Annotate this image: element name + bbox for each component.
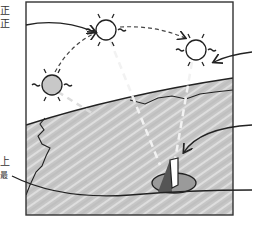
sun-path-arc-left	[55, 33, 95, 72]
sun-afternoon-icon	[176, 34, 216, 66]
sun-noon-icon	[86, 14, 126, 46]
ground	[26, 40, 233, 215]
sun-path-arc-right	[120, 27, 185, 38]
pointer-arrow-noon	[26, 23, 95, 32]
sun-low-icon	[32, 69, 72, 101]
sun-path-diagram	[0, 0, 254, 230]
